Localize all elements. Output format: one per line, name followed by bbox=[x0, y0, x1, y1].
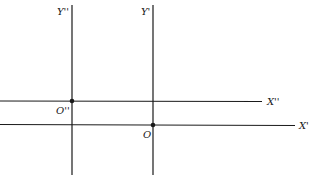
x-prime-axis bbox=[0, 125, 295, 126]
x-prime-label: X' bbox=[299, 121, 309, 131]
origin-double-prime-point bbox=[70, 99, 75, 104]
origin-point bbox=[151, 123, 156, 128]
coordinate-axes-diagram bbox=[0, 0, 312, 186]
x-double-prime-label: X'' bbox=[267, 97, 280, 107]
origin-label: O bbox=[143, 130, 151, 140]
origin-double-prime-label: O'' bbox=[56, 106, 70, 116]
y-double-prime-label: Y'' bbox=[57, 7, 69, 17]
x-double-prime-axis bbox=[0, 101, 262, 102]
y-prime-label: Y' bbox=[141, 7, 150, 17]
